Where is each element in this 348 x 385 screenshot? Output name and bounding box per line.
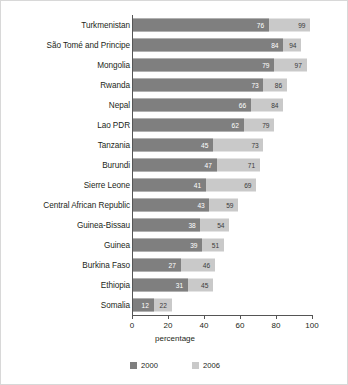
bar-value-2000: 45	[201, 142, 208, 149]
chart-row: Sierre Leone4169	[1, 175, 348, 195]
x-axis-line	[132, 315, 312, 316]
bar-group: 2746	[132, 259, 332, 272]
x-axis-tick-label: 60	[236, 321, 245, 330]
bar-value-2006: 84	[271, 102, 278, 109]
bar-group: 3951	[132, 239, 332, 252]
x-axis-tick-label: 0	[130, 321, 134, 330]
bar-value-2006: 79	[262, 122, 269, 129]
legend-label: 2006	[203, 361, 220, 370]
x-axis-tick	[168, 315, 169, 319]
chart-row: Ethiopia3145	[1, 275, 348, 295]
chart-row: Burkina Faso2746	[1, 255, 348, 275]
bar-value-2000: 43	[197, 202, 204, 209]
bar-group: 7386	[132, 79, 332, 92]
chart-row: Nepal6684	[1, 95, 348, 115]
x-axis-tick	[132, 315, 133, 319]
x-axis-tick-label: 40	[200, 321, 209, 330]
chart-row: Somalia1222	[1, 295, 348, 315]
bar-value-2000: 31	[176, 282, 183, 289]
chart-row: São Tomé and Principe8494	[1, 35, 348, 55]
category-label: Somalia	[101, 301, 130, 310]
bar-segment-2000	[132, 59, 274, 72]
x-axis-tick-label: 100	[305, 321, 318, 330]
category-label: Lao PDR	[97, 121, 130, 130]
category-label: Burundi	[102, 161, 130, 170]
category-label: Central African Republic	[43, 201, 130, 210]
chart-row: Turkmenistan7699	[1, 15, 348, 35]
bar-segment-2000	[132, 79, 263, 92]
bar-group: 7699	[132, 19, 332, 32]
category-label: Tanzania	[98, 141, 130, 150]
chart-row: Central African Republic4359	[1, 195, 348, 215]
bar-group: 4771	[132, 159, 332, 172]
x-axis-tick	[312, 315, 313, 319]
bar-group: 3854	[132, 219, 332, 232]
category-label: Rwanda	[100, 81, 130, 90]
bar-value-2006: 54	[217, 222, 224, 229]
bar-value-2006: 94	[289, 42, 296, 49]
bar-segment-2000	[132, 119, 244, 132]
bar-value-2000: 73	[251, 82, 258, 89]
bar-value-2006: 86	[275, 82, 282, 89]
chart-row: Rwanda7386	[1, 75, 348, 95]
legend-item: 2006	[192, 361, 220, 370]
chart-row: Lao PDR6279	[1, 115, 348, 135]
bar-group: 3145	[132, 279, 332, 292]
y-axis-line	[132, 15, 133, 315]
category-label: Ethiopia	[101, 281, 130, 290]
x-axis-tick	[240, 315, 241, 319]
bar-value-2006: 69	[244, 182, 251, 189]
chart-row: Guinea-Bissau3854	[1, 215, 348, 235]
bar-value-2000: 41	[194, 182, 201, 189]
bar-value-2000: 38	[188, 222, 195, 229]
bar-value-2006: 59	[226, 202, 233, 209]
category-label: Mongolia	[97, 61, 130, 70]
category-label: São Tomé and Principe	[47, 41, 130, 50]
bar-value-2000: 79	[262, 62, 269, 69]
legend-swatch-icon	[130, 362, 137, 369]
bar-segment-2000	[132, 99, 251, 112]
bar-group: 4169	[132, 179, 332, 192]
bar-value-2006: 46	[203, 262, 210, 269]
category-label: Nepal	[109, 101, 130, 110]
chart-figure: Turkmenistan7699São Tomé and Principe849…	[0, 0, 348, 385]
bar-value-2006: 99	[298, 22, 305, 29]
bar-value-2000: 47	[205, 162, 212, 169]
legend-label: 2000	[141, 361, 158, 370]
x-axis-tick	[276, 315, 277, 319]
bar-value-2000: 66	[239, 102, 246, 109]
chart-row: Guinea3951	[1, 235, 348, 255]
bar-group: 8494	[132, 39, 332, 52]
bar-value-2000: 76	[257, 22, 264, 29]
bar-value-2006: 51	[212, 242, 219, 249]
bar-value-2000: 39	[190, 242, 197, 249]
chart-row: Mongolia7997	[1, 55, 348, 75]
bar-group: 7997	[132, 59, 332, 72]
bar-value-2006: 71	[248, 162, 255, 169]
legend-swatch-icon	[192, 362, 199, 369]
category-label: Guinea	[104, 241, 130, 250]
legend-item: 2000	[130, 361, 158, 370]
bar-value-2000: 12	[142, 302, 149, 309]
category-label: Sierre Leone	[84, 181, 130, 190]
bar-segment-2000	[132, 19, 269, 32]
bar-value-2000: 27	[169, 262, 176, 269]
bar-value-2006: 22	[160, 302, 167, 309]
bar-value-2000: 84	[271, 42, 278, 49]
bar-group: 4359	[132, 199, 332, 212]
bar-segment-2000	[132, 39, 283, 52]
x-axis-tick-label: 20	[164, 321, 173, 330]
x-axis-title: percentage	[1, 334, 348, 343]
category-label: Burkina Faso	[82, 261, 130, 270]
chart-row: Tanzania4573	[1, 135, 348, 155]
x-axis-tick-label: 80	[272, 321, 281, 330]
x-axis-tick	[204, 315, 205, 319]
bar-value-2006: 73	[251, 142, 258, 149]
bar-group: 6279	[132, 119, 332, 132]
plot-area: Turkmenistan7699São Tomé and Principe849…	[1, 1, 348, 319]
bar-group: 1222	[132, 299, 332, 312]
category-label: Turkmenistan	[81, 21, 130, 30]
category-label: Guinea-Bissau	[77, 221, 130, 230]
bar-value-2006: 97	[295, 62, 302, 69]
bar-value-2006: 45	[201, 282, 208, 289]
